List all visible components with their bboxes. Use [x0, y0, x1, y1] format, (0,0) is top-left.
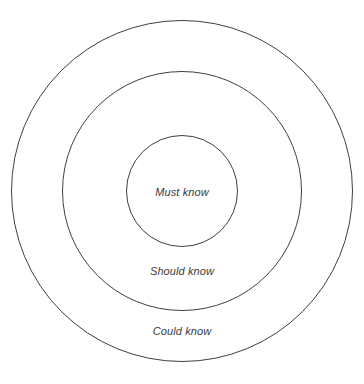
ring-label-should-know: Should know — [0, 265, 364, 278]
ring-label-must-know: Must know — [0, 186, 364, 199]
concentric-rings-diagram: Must know Should know Could know — [0, 0, 364, 384]
ring-label-could-know: Could know — [0, 325, 364, 338]
